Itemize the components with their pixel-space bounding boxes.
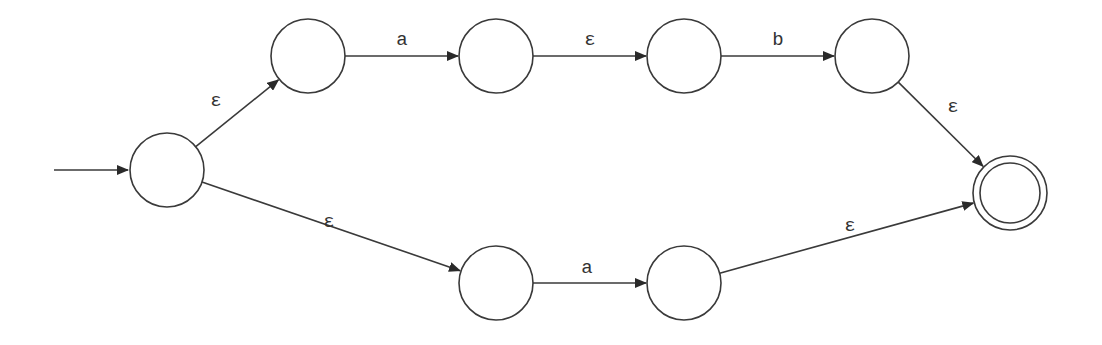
state-node <box>647 19 721 93</box>
transition-label: ε <box>584 31 595 50</box>
transition-arrow <box>898 82 983 166</box>
state-node <box>271 19 345 93</box>
transition-label: a <box>396 31 407 50</box>
state-node <box>647 246 721 320</box>
transition-label: ε <box>844 217 855 236</box>
transition-label: ε <box>323 213 334 232</box>
accept-state <box>973 156 1047 230</box>
state-node <box>835 19 909 93</box>
state-node <box>459 246 533 320</box>
transition-label: ε <box>210 92 221 111</box>
transition-label: ε <box>947 98 958 117</box>
start-state <box>130 133 204 207</box>
transition-arrow <box>196 80 279 147</box>
state-node <box>459 19 533 93</box>
transition-label: b <box>772 31 783 50</box>
nfa-diagram <box>0 0 1102 345</box>
transition-label: a <box>581 259 592 278</box>
